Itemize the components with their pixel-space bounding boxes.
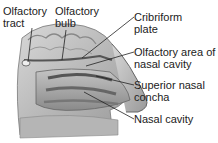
label-cribriform-plate: Cribriform plate bbox=[134, 11, 182, 35]
label-superior-nasal-concha: Superior nasal concha bbox=[134, 79, 205, 103]
label-olfactory-tract: Olfactory tract bbox=[3, 5, 47, 29]
label-nasal-cavity: Nasal cavity bbox=[134, 113, 193, 125]
label-olfactory-bulb: Olfactory bulb bbox=[55, 5, 99, 29]
label-olfactory-area: Olfactory area of nasal cavity bbox=[134, 46, 215, 70]
